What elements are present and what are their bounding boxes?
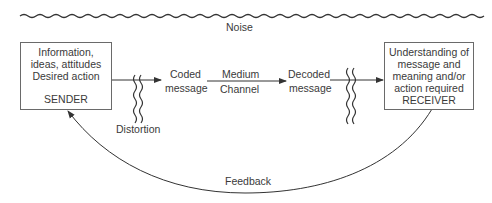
- coded-message-line-1: Coded: [170, 68, 201, 81]
- decoded-message-line-1: Decoded: [288, 68, 330, 81]
- receiver-line-2: message and: [385, 58, 473, 71]
- distortion-label: Distortion: [116, 123, 160, 136]
- channel-channel-label: Channel: [220, 83, 259, 96]
- feedback-label: Feedback: [225, 175, 271, 188]
- receiver-box: Understanding of message and meaning and…: [384, 42, 474, 110]
- noise-wave: [20, 15, 484, 18]
- sender-box: Information, ideas, attitudes Desired ac…: [20, 42, 112, 110]
- coded-message-line-2: message: [165, 82, 208, 95]
- sender-line-3: Desired action: [21, 70, 111, 83]
- distortion-squiggle-left: [134, 75, 143, 123]
- sender-role: SENDER: [21, 93, 111, 106]
- receiver-line-4: action required: [385, 82, 473, 95]
- receiver-role: RECEIVER: [385, 94, 473, 107]
- noise-label: Noise: [226, 21, 253, 34]
- channel-medium-label: Medium: [222, 68, 259, 81]
- sender-line-1: Information,: [21, 46, 111, 59]
- decoded-message-line-2: message: [289, 82, 332, 95]
- receiver-line-3: meaning and/or: [385, 70, 473, 83]
- sender-line-2: ideas, attitudes: [21, 58, 111, 71]
- receiver-line-1: Understanding of: [385, 46, 473, 59]
- distortion-squiggle-right: [347, 68, 356, 124]
